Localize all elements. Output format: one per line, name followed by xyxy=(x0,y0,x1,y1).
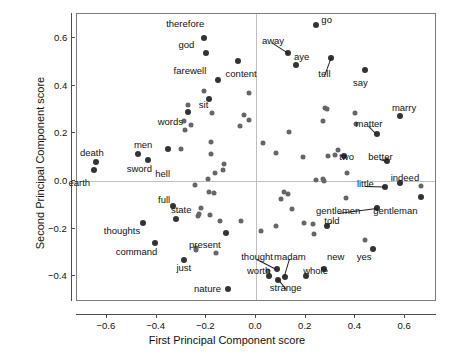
y-tick-label: 0.4 xyxy=(54,79,67,90)
scatter-point xyxy=(179,147,184,152)
scatter-point xyxy=(222,162,227,167)
point-label-away: away xyxy=(262,36,284,46)
plot-area: thereforegogodawayayetellcontentsayfarew… xyxy=(76,13,436,301)
point-label-yes: yes xyxy=(357,252,372,262)
point-label-little: little xyxy=(357,179,374,189)
scatter-point-thoughts xyxy=(140,220,146,226)
x-tick-label: 0.2 xyxy=(298,320,311,331)
point-label-say: say xyxy=(353,78,368,88)
scatter-point xyxy=(202,88,207,93)
scatter-point xyxy=(246,90,251,95)
scatter-point xyxy=(198,205,203,210)
x-axis-line xyxy=(76,314,436,315)
x-tick-label: 0.6 xyxy=(398,320,411,331)
scatter-point xyxy=(212,191,217,196)
point-label-words: words xyxy=(158,117,183,127)
x-axis-title: First Principal Component score xyxy=(0,334,454,346)
scatter-point-gentleman xyxy=(418,194,424,200)
point-label-hell: hell xyxy=(155,169,170,179)
zero-horizontal-reference-line xyxy=(77,181,435,182)
x-tick-mark xyxy=(354,314,355,318)
scatter-point xyxy=(314,177,319,182)
scatter-point xyxy=(273,223,278,228)
scatter-point-nature xyxy=(225,286,231,292)
scatter-point-present xyxy=(223,230,229,236)
scatter-point xyxy=(310,221,315,226)
scatter-point xyxy=(353,110,358,115)
x-tick-mark xyxy=(305,314,306,318)
scatter-point-words xyxy=(185,109,191,115)
scatter-point xyxy=(209,110,214,115)
y-tick-mark xyxy=(71,85,75,86)
point-label-marry: marry xyxy=(392,103,416,113)
y-tick-label: 0.6 xyxy=(54,31,67,42)
scatter-point xyxy=(183,128,188,133)
scatter-point-state xyxy=(173,216,179,222)
pca-scatter-figure: thereforegogodawayayetellcontentsayfarew… xyxy=(0,0,454,356)
point-label-gentleman: gentleman xyxy=(373,206,417,216)
scatter-point xyxy=(320,119,325,124)
scatter-point-god xyxy=(203,50,209,56)
scatter-point xyxy=(213,171,218,176)
x-tick-label: −0.4 xyxy=(146,320,165,331)
scatter-point xyxy=(205,177,210,182)
y-tick-mark xyxy=(71,180,75,181)
scatter-point xyxy=(217,218,222,223)
scatter-point-men xyxy=(135,151,141,157)
scatter-point xyxy=(214,250,219,255)
x-tick-label: −0.6 xyxy=(96,320,115,331)
y-tick-label: 0.0 xyxy=(54,174,67,185)
point-label-sit: sit xyxy=(199,100,209,110)
y-axis-title: Second Principal Component score xyxy=(34,19,46,307)
scatter-point xyxy=(196,214,201,219)
scatter-point xyxy=(362,238,367,243)
scatter-point-aye xyxy=(293,62,299,68)
scatter-point xyxy=(220,168,225,173)
scatter-point-marry xyxy=(397,113,403,119)
point-label-whole: whole xyxy=(303,266,328,276)
scatter-point-earth xyxy=(91,167,97,173)
point-label-content: content xyxy=(226,69,257,79)
x-tick-mark xyxy=(156,314,157,318)
scatter-point xyxy=(192,182,197,187)
scatter-point-death xyxy=(93,159,99,165)
point-label-just: just xyxy=(176,263,191,273)
scatter-point xyxy=(209,140,214,145)
scatter-point xyxy=(238,124,243,129)
scatter-point xyxy=(260,140,265,145)
scatter-point xyxy=(301,155,306,160)
point-label-strange: strange xyxy=(270,283,302,293)
y-axis-line xyxy=(71,13,72,301)
scatter-point xyxy=(246,118,251,123)
point-label-sword: sword xyxy=(127,164,152,174)
point-label-death: death xyxy=(80,148,104,158)
scatter-point xyxy=(208,151,213,156)
point-label-indeed: indeed xyxy=(391,173,420,183)
scatter-point-go xyxy=(313,22,319,28)
scatter-point-say xyxy=(362,67,368,73)
scatter-point xyxy=(321,179,326,184)
x-tick-mark xyxy=(205,314,206,318)
y-tick-label: 0.2 xyxy=(54,127,67,138)
scatter-point xyxy=(208,212,213,217)
point-label-present: present xyxy=(189,240,221,250)
point-label-therefore: therefore xyxy=(166,19,204,29)
scatter-point xyxy=(188,123,193,128)
scatter-point-therefore xyxy=(201,35,207,41)
point-label-two: two xyxy=(339,152,354,162)
x-tick-mark xyxy=(404,314,405,318)
x-tick-mark xyxy=(106,314,107,318)
x-tick-label: −0.2 xyxy=(196,320,215,331)
scatter-point xyxy=(274,150,279,155)
y-tick-label: −0.4 xyxy=(48,270,67,281)
point-label-god: god xyxy=(178,40,194,50)
scatter-point-farewell xyxy=(215,77,221,83)
scatter-point xyxy=(279,197,284,202)
y-tick-mark xyxy=(71,132,75,133)
scatter-point-hell xyxy=(165,146,171,152)
point-label-matter: matter xyxy=(356,119,383,129)
point-label-madam: madam xyxy=(274,252,306,262)
scatter-point xyxy=(301,220,306,225)
scatter-point xyxy=(287,129,292,134)
scatter-point xyxy=(206,190,211,195)
